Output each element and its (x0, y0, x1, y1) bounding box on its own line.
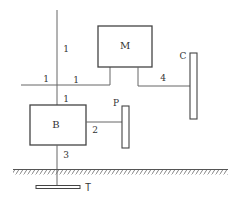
bar-c (190, 53, 197, 119)
bar-c-label: C (180, 51, 187, 61)
bar-t (36, 186, 80, 189)
bar-t-label: T (85, 182, 91, 193)
bar-p (122, 106, 129, 148)
line-1-top-label: 1 (63, 44, 69, 54)
line-1-mid-label: 1 (63, 94, 69, 104)
line-4-label: 4 (160, 73, 166, 83)
line-2-label: 2 (92, 125, 98, 135)
line-3-label: 3 (63, 150, 69, 160)
line-1-right-label: 1 (73, 75, 79, 85)
circuit-diagram: M 4 C 1 1 1 1 B 2 P 3 T (0, 0, 240, 206)
ground (13, 170, 228, 175)
block-m-label: M (120, 40, 130, 51)
block-b-label: B (52, 119, 59, 130)
bar-p-label: P (113, 98, 119, 108)
line-1-left-label: 1 (43, 74, 49, 84)
